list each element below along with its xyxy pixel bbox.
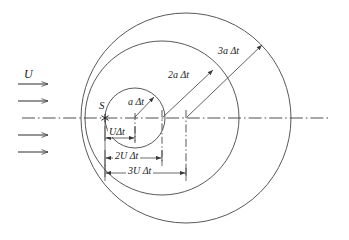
dimension-label-3u-dt: 3U Δt bbox=[126, 166, 153, 176]
radius-callouts bbox=[135, 45, 262, 117]
radius-label-2a: 2a Δt bbox=[168, 70, 189, 80]
source-label: S bbox=[99, 100, 105, 111]
dimension-label-2u-dt: 2U Δt bbox=[113, 151, 140, 161]
wavefront-diagram: U S a Δt 2a Δt 3a Δt UΔt 2U Δt 3U Δt bbox=[0, 0, 349, 240]
freestream-velocity-label: U bbox=[24, 68, 33, 80]
diagram-canvas bbox=[0, 0, 349, 240]
radius-label-a: a Δt bbox=[128, 97, 144, 107]
dimension-label-u-dt: UΔt bbox=[108, 127, 126, 137]
radius-label-3a: 3a Δt bbox=[218, 46, 239, 56]
